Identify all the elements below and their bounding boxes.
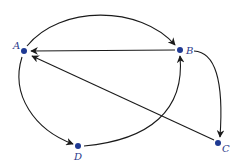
node-c-label: C xyxy=(222,143,230,154)
edge-a-to-d xyxy=(19,57,73,144)
directed-graph: A B C D xyxy=(0,0,242,166)
node-d xyxy=(75,143,81,149)
edge-c-to-a xyxy=(32,56,214,140)
node-b-label: B xyxy=(185,45,193,56)
node-d-label: D xyxy=(73,151,82,162)
node-c xyxy=(215,140,221,146)
node-a-label: A xyxy=(12,40,20,51)
edge-a-to-b xyxy=(27,15,175,46)
edge-b-to-c xyxy=(194,51,221,137)
node-a xyxy=(21,48,27,54)
node-b xyxy=(177,47,183,53)
edge-d-to-b xyxy=(84,56,180,146)
edge-b-to-a xyxy=(31,50,175,51)
